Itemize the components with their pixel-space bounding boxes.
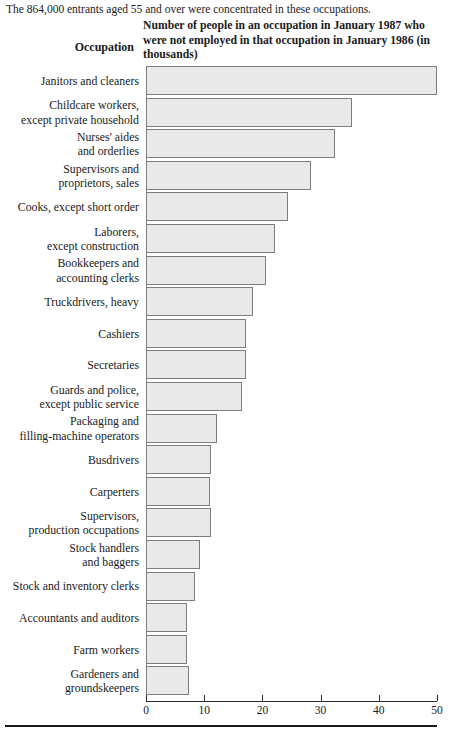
x-axis-tick-label: 40 xyxy=(359,703,399,717)
chart-row: Secretaries xyxy=(0,350,451,379)
category-label: Carperters xyxy=(0,485,139,499)
category-label: Cashiers xyxy=(0,327,139,341)
category-label: Laborers, except construction xyxy=(0,225,139,253)
chart-row: Gardeners and groundskeepers xyxy=(0,666,451,695)
bar xyxy=(146,287,253,316)
occupation-column-heading: Occupation xyxy=(0,40,134,55)
bar xyxy=(146,129,335,158)
x-axis-tick xyxy=(379,695,380,701)
value-column-heading: Number of people in an occupation in Jan… xyxy=(143,19,443,63)
category-label: Childcare workers, except private househ… xyxy=(0,98,139,126)
category-label: Stock and inventory clerks xyxy=(0,579,139,593)
chart-row: Janitors and cleaners xyxy=(0,66,451,95)
bar xyxy=(146,66,437,95)
chart-row: Supervisors and proprietors, sales xyxy=(0,161,451,190)
x-axis-line xyxy=(146,701,437,702)
category-label: Supervisors and proprietors, sales xyxy=(0,162,139,190)
category-label: Bookkeepers and accounting clerks xyxy=(0,256,139,284)
x-axis-tick-label: 20 xyxy=(242,703,282,717)
intro-text: The 864,000 entrants aged 55 and over we… xyxy=(6,2,446,16)
category-label: Farm workers xyxy=(0,643,139,657)
bar xyxy=(146,382,242,411)
chart-row: Nurses' aides and orderlies xyxy=(0,129,451,158)
chart-row: Farm workers xyxy=(0,635,451,664)
category-label: Gardeners and groundskeepers xyxy=(0,667,139,695)
bottom-rule xyxy=(5,725,437,727)
bar xyxy=(146,256,266,285)
bar xyxy=(146,666,189,695)
category-label: Packaging and filling-machine operators xyxy=(0,414,139,442)
category-label: Accountants and auditors xyxy=(0,611,139,625)
bar xyxy=(146,192,288,221)
chart-row: Stock handlers and baggers xyxy=(0,540,451,569)
chart-row: Truckdrivers, heavy xyxy=(0,287,451,316)
bar xyxy=(146,572,195,601)
chart-row: Stock and inventory clerks xyxy=(0,572,451,601)
chart-row: Childcare workers, except private househ… xyxy=(0,98,451,127)
chart-row: Carperters xyxy=(0,477,451,506)
bar xyxy=(146,540,200,569)
category-label: Stock handlers and baggers xyxy=(0,541,139,569)
bar xyxy=(146,161,311,190)
x-axis-tick-label: 0 xyxy=(126,703,166,717)
category-label: Guards and police, except public service xyxy=(0,383,139,411)
chart-row: Packaging and filling-machine operators xyxy=(0,414,451,443)
category-label: Janitors and cleaners xyxy=(0,74,139,88)
x-axis-tick xyxy=(146,695,147,701)
x-axis-tick-label: 10 xyxy=(184,703,224,717)
bar xyxy=(146,350,246,379)
bar xyxy=(146,603,187,632)
bar xyxy=(146,319,246,348)
category-label: Secretaries xyxy=(0,358,139,372)
category-label: Supervisors, production occupations xyxy=(0,509,139,537)
chart-row: Bookkeepers and accounting clerks xyxy=(0,256,451,285)
y-axis-spine xyxy=(146,66,147,695)
bar xyxy=(146,635,187,664)
chart-row: Guards and police, except public service xyxy=(0,382,451,411)
x-axis-tick xyxy=(204,695,205,701)
bar xyxy=(146,224,275,253)
category-label: Busdrivers xyxy=(0,453,139,467)
x-axis-tick xyxy=(437,695,438,701)
category-label: Nurses' aides and orderlies xyxy=(0,130,139,158)
chart-row: Cashiers xyxy=(0,319,451,348)
category-label: Truckdrivers, heavy xyxy=(0,295,139,309)
bar xyxy=(146,414,217,443)
bar xyxy=(146,477,210,506)
chart-row: Cooks, except short order xyxy=(0,192,451,221)
x-axis-tick xyxy=(262,695,263,701)
chart-row: Accountants and auditors xyxy=(0,603,451,632)
x-axis-tick xyxy=(321,695,322,701)
bar xyxy=(146,445,211,474)
bar-chart: Janitors and cleanersChildcare workers, … xyxy=(0,64,451,700)
x-axis-tick-label: 50 xyxy=(417,703,451,717)
x-axis-tick-label: 30 xyxy=(301,703,341,717)
chart-row: Busdrivers xyxy=(0,445,451,474)
bar xyxy=(146,508,211,537)
category-label: Cooks, except short order xyxy=(0,200,139,214)
chart-row: Supervisors, production occupations xyxy=(0,508,451,537)
chart-row: Laborers, except construction xyxy=(0,224,451,253)
bar xyxy=(146,98,352,127)
